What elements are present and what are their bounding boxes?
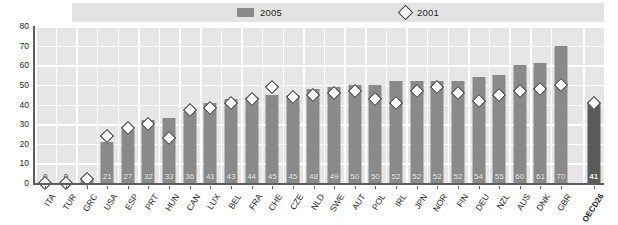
x-axis-label: TUR	[60, 192, 78, 212]
x-axis-tick	[396, 186, 397, 189]
legend-entry-2001: 2001	[400, 7, 439, 18]
x-axis-tick	[375, 186, 376, 189]
chart-column[interactable]: 49	[324, 26, 345, 183]
legend-label-2005: 2005	[260, 7, 282, 18]
bar-value-label: 44	[247, 173, 256, 181]
bar-chart: 0022127323336414344454548495050525252525…	[0, 26, 618, 225]
column-separator	[365, 26, 367, 183]
column-separator	[283, 26, 285, 183]
column-separator	[35, 26, 37, 183]
column-separator	[530, 26, 532, 183]
bar-2005[interactable]	[431, 81, 444, 183]
bar-value-label: 48	[309, 173, 318, 181]
x-axis-tick	[252, 186, 253, 189]
x-axis-tick	[499, 186, 500, 189]
x-axis-label: PRT	[143, 192, 161, 212]
chart-column[interactable]: 45	[262, 26, 283, 183]
y-axis: 01020304050607080	[0, 26, 33, 184]
bar-2005[interactable]	[286, 95, 299, 183]
x-axis-label: FIN	[454, 192, 470, 209]
x-axis-tick	[190, 186, 191, 189]
chart-column[interactable]: 44	[241, 26, 262, 183]
bar-value-label: 54	[474, 173, 483, 181]
chart-column[interactable]: 43	[221, 26, 242, 183]
x-axis-tick	[293, 186, 294, 189]
chart-column[interactable]: 0	[35, 26, 56, 183]
chart-column[interactable]: 36	[179, 26, 200, 183]
marker-2001[interactable]	[265, 80, 279, 94]
chart-column[interactable]: 52	[427, 26, 448, 183]
x-axis-tick	[417, 186, 418, 189]
chart-column[interactable]: 60	[509, 26, 530, 183]
x-axis-label: NZL	[494, 192, 511, 211]
bar-2005[interactable]	[555, 46, 568, 183]
x-axis-label: BEL	[226, 192, 243, 211]
bar-value-label: 61	[536, 173, 545, 181]
column-separator	[427, 26, 429, 183]
bar-2005[interactable]	[348, 85, 361, 183]
x-axis-tick	[594, 186, 595, 189]
column-separator	[262, 26, 264, 183]
y-axis-tick-label: 50	[3, 80, 29, 90]
chart-column[interactable]: 2	[76, 26, 97, 183]
column-separator	[56, 26, 58, 183]
column-separator	[118, 26, 120, 183]
chart-column[interactable]: 52	[406, 26, 427, 183]
x-axis-label: DNK	[535, 192, 553, 213]
chart-column[interactable]: 41	[200, 26, 221, 183]
chart-column[interactable]: 70	[551, 26, 572, 183]
chart-column[interactable]: 41	[583, 26, 604, 183]
bar-2005[interactable]	[587, 103, 600, 183]
bar-value-label: 21	[103, 173, 112, 181]
chart-column[interactable]: 52	[448, 26, 469, 183]
chart-column[interactable]: 55	[489, 26, 510, 183]
x-axis-label: FRA	[246, 192, 264, 212]
bar-2005[interactable]	[245, 97, 258, 183]
y-axis-line	[33, 26, 35, 184]
x-axis-label: AUT	[349, 192, 367, 212]
bar-value-label: 41	[206, 173, 215, 181]
x-axis-tick	[458, 186, 459, 189]
chart-column[interactable]: 27	[118, 26, 139, 183]
chart-column[interactable]: 0	[56, 26, 77, 183]
x-axis-label: HUN	[163, 192, 181, 213]
bar-2005[interactable]	[266, 95, 279, 183]
x-axis-tick	[66, 186, 67, 189]
column-separator	[200, 26, 202, 183]
column-separator	[97, 26, 99, 183]
bar-2005[interactable]	[307, 89, 320, 183]
bar-value-label: 52	[453, 173, 462, 181]
x-axis-label: JPN	[412, 192, 429, 211]
y-axis-tick-label: 30	[3, 119, 29, 129]
chart-column[interactable]: 50	[365, 26, 386, 183]
column-separator	[583, 26, 585, 183]
bar-2005[interactable]	[534, 63, 547, 183]
bar-value-label: 60	[515, 173, 524, 181]
x-axis-label: CZE	[288, 192, 306, 212]
x-axis-label: USA	[102, 192, 120, 212]
chart-column[interactable]: 48	[303, 26, 324, 183]
bar-2005[interactable]	[224, 99, 237, 183]
bar-value-label: 52	[433, 173, 442, 181]
y-axis-tick-label: 20	[3, 139, 29, 149]
chart-column[interactable]: 61	[530, 26, 551, 183]
bars-layer: 0022127323336414344454548495050525252525…	[35, 26, 604, 183]
chart-column[interactable]: 33	[159, 26, 180, 183]
bar-2005[interactable]	[328, 87, 341, 183]
column-separator	[448, 26, 450, 183]
chart-column[interactable]: 50	[344, 26, 365, 183]
y-axis-tick-label: 0	[3, 178, 29, 188]
chart-column[interactable]: 21	[97, 26, 118, 183]
x-axis-tick	[210, 186, 211, 189]
legend-label-2001: 2001	[417, 7, 439, 18]
bar-value-label: 49	[330, 173, 339, 181]
chart-column[interactable]: 54	[468, 26, 489, 183]
chart-column[interactable]: 45	[283, 26, 304, 183]
x-axis-label: NLD	[308, 192, 326, 212]
x-axis-tick	[479, 186, 480, 189]
x-axis-tick	[169, 186, 170, 189]
x-axis-tick	[87, 186, 88, 189]
chart-column[interactable]: 52	[386, 26, 407, 183]
column-separator	[241, 26, 243, 183]
chart-column[interactable]: 32	[138, 26, 159, 183]
